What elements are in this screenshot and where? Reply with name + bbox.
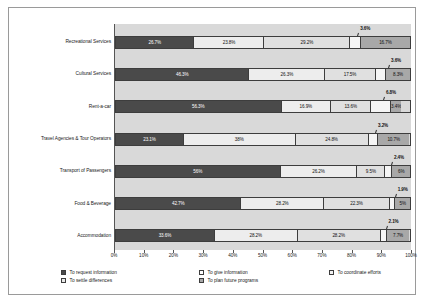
segment-callout-label: 2.1% xyxy=(389,219,399,224)
legend-swatch-icon xyxy=(199,270,204,275)
bar-segment: 46.3% xyxy=(116,69,249,80)
bar-segment: 3.4% xyxy=(391,101,401,112)
bar-segment: 38% xyxy=(184,134,296,145)
axis-tick-label: 100% xyxy=(405,253,417,258)
segment-value-label: 16.7% xyxy=(379,40,392,45)
segment-callout-label: 3.6% xyxy=(360,26,370,31)
bar-segment: 29.2% xyxy=(264,37,350,48)
category-axis-labels: Recreational ServicesCultural ServicesRe… xyxy=(9,24,111,250)
legend-label: To plan future programs xyxy=(208,278,259,283)
bar-row: 42.7%28.2%22.3%1.9%5% xyxy=(115,197,411,210)
legend-swatch-icon xyxy=(329,270,334,275)
chart-legend: To request information To give informati… xyxy=(61,270,401,286)
bar-row: 56%26.2%9.5%2.4%6% xyxy=(115,165,411,178)
segment-value-label: 13.6% xyxy=(344,104,357,109)
legend-item-to-settle-differences: To settle differences xyxy=(61,278,199,283)
segment-callout-label: 3.6% xyxy=(391,58,401,63)
legend-swatch-icon xyxy=(199,278,204,283)
bar-segment: 26.2% xyxy=(281,166,358,177)
bar-row: 23.1%38%24.8%3.2%10.7% xyxy=(115,133,411,146)
legend-label: To give information xyxy=(208,270,248,275)
bar-segment: 6% xyxy=(392,166,410,177)
bar-segment: 28.2% xyxy=(215,230,298,241)
chart-frame: Recreational ServicesCultural ServicesRe… xyxy=(8,7,416,295)
segment-value-label: 28.2% xyxy=(276,201,289,206)
bar-segment: 24.8% xyxy=(296,134,369,145)
segment-value-label: 6% xyxy=(398,169,404,174)
legend-item-to-plan-future-programs: To plan future programs xyxy=(199,278,329,283)
legend-row-1: To request information To give informati… xyxy=(61,270,401,275)
category-label: Accommodation xyxy=(11,233,111,238)
segment-value-label: 56.3% xyxy=(192,104,205,109)
bar-segment: 26.7% xyxy=(116,37,194,48)
bar-segment: 6.8% xyxy=(371,101,391,112)
category-label: Rent-a-car xyxy=(11,104,111,109)
segment-value-label: 26.3% xyxy=(281,72,294,77)
bar-segment: 2.4% xyxy=(385,166,392,177)
category-label: Food & Beverage xyxy=(11,201,111,206)
axis-tick-label: 20% xyxy=(169,253,178,258)
legend-item-to-request-information: To request information xyxy=(61,270,199,275)
segment-value-label: 26.7% xyxy=(148,40,161,45)
bar-segment: 13.6% xyxy=(331,101,371,112)
stacked-bar: 26.7%23.8%29.2%3.6%16.7% xyxy=(115,36,411,49)
segment-value-label: 8.3% xyxy=(393,72,403,77)
segment-value-label: 26.2% xyxy=(312,169,325,174)
bar-segment: 23.1% xyxy=(116,134,184,145)
segment-value-label: 5% xyxy=(399,201,405,206)
category-label: Transport of Passengers xyxy=(11,168,111,173)
bar-segment: 3.6% xyxy=(376,69,386,80)
bar-segment: 10.7% xyxy=(378,134,409,145)
bar-segment: 8.3% xyxy=(386,69,410,80)
legend-label: To request information xyxy=(70,270,117,275)
segment-value-label: 28.2% xyxy=(332,233,345,238)
stacked-bar: 46.3%26.3%17.5%3.6%8.3% xyxy=(115,68,411,81)
legend-item-to-coordinate-efforts: To coordinate efforts xyxy=(329,270,381,275)
bar-row: 56.3%16.9%13.6%6.8%3.4% xyxy=(115,100,411,113)
segment-value-label: 10.7% xyxy=(387,137,400,142)
segment-value-label: 38% xyxy=(235,137,244,142)
axis-tick-label: 10% xyxy=(139,253,148,258)
bar-row: 46.3%26.3%17.5%3.6%8.3% xyxy=(115,68,411,81)
axis-tick-label: 0% xyxy=(111,253,118,258)
axis-tick-label: 70% xyxy=(317,253,326,258)
bar-segment: 7.7% xyxy=(387,230,410,241)
axis-tick-label: 90% xyxy=(377,253,386,258)
segment-value-label: 56% xyxy=(193,169,202,174)
segment-value-label: 3.4% xyxy=(391,104,401,109)
stacked-bar: 56.3%16.9%13.6%6.8%3.4% xyxy=(115,100,411,113)
bar-segment: 28.2% xyxy=(298,230,381,241)
segment-value-label: 9.5% xyxy=(366,169,376,174)
stacked-bar: 23.1%38%24.8%3.2%10.7% xyxy=(115,133,411,146)
segment-value-label: 7.7% xyxy=(393,233,403,238)
legend-item-to-give-information: To give information xyxy=(199,270,329,275)
stacked-bar: 42.7%28.2%22.3%1.9%5% xyxy=(115,197,411,210)
bar-segment: 22.3% xyxy=(324,198,389,209)
segment-value-label: 28.2% xyxy=(249,233,262,238)
plot-area: 3.6%26.7%23.8%29.2%3.6%16.7%3.6%46.3%26.… xyxy=(114,24,411,250)
bar-row: 33.6%28.2%28.2%2.1%7.7% xyxy=(115,229,411,242)
bar-segment: 56% xyxy=(116,166,281,177)
axis-tick-label: 80% xyxy=(347,253,356,258)
legend-label: To coordinate efforts xyxy=(338,270,381,275)
segment-value-label: 22.3% xyxy=(350,201,363,206)
category-label: Cultural Services xyxy=(11,71,111,76)
bar-segment: 17.5% xyxy=(325,69,375,80)
bar-segment: 16.9% xyxy=(282,101,332,112)
bar-segment: 3.6% xyxy=(350,37,361,48)
bar-segment: 9.5% xyxy=(357,166,385,177)
bar-segment: 16.7% xyxy=(361,37,410,48)
bar-segment: 5% xyxy=(395,198,410,209)
stacked-bar: 33.6%28.2%28.2%2.1%7.7% xyxy=(115,229,411,242)
segment-callout-label: 2.4% xyxy=(394,155,404,160)
bar-segment: 23.8% xyxy=(194,37,264,48)
category-label: Recreational Services xyxy=(11,39,111,44)
bar-segment: 26.3% xyxy=(249,69,325,80)
segment-value-label: 24.8% xyxy=(325,137,338,142)
segment-value-label: 46.3% xyxy=(176,72,189,77)
legend-swatch-icon xyxy=(61,270,66,275)
x-axis: 0%10%20%30%40%50%60%70%80%90%100% xyxy=(114,250,411,262)
bar-segment: 42.7% xyxy=(116,198,241,209)
segment-value-label: 23.8% xyxy=(223,40,236,45)
legend-label: To settle differences xyxy=(70,278,113,283)
